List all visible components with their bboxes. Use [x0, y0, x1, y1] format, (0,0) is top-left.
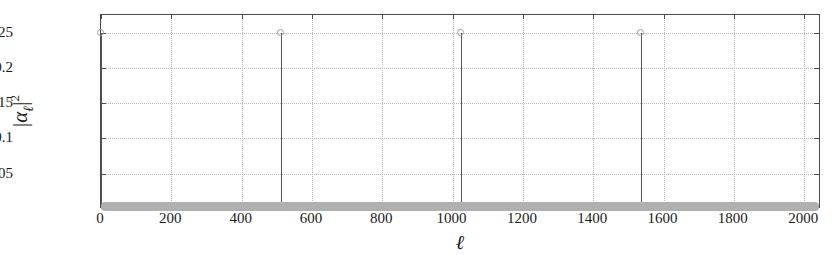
gridline-vertical: [804, 15, 805, 207]
x-tick-top: [242, 14, 243, 19]
gridline-horizontal: [101, 103, 819, 104]
gridline-vertical: [171, 15, 172, 207]
gridline-vertical: [664, 15, 665, 207]
gridline-vertical: [382, 15, 383, 207]
stem-line: [641, 33, 642, 209]
y-tick-label: 0.25: [0, 24, 13, 39]
gridline-vertical: [734, 15, 735, 207]
gridline-vertical: [453, 15, 454, 207]
stem-marker-open-circle: [277, 29, 284, 36]
stem-line: [281, 33, 282, 209]
x-tick-label: 800: [370, 211, 393, 226]
gridline-vertical: [242, 15, 243, 207]
gridline-vertical: [593, 15, 594, 207]
x-tick-top: [734, 14, 735, 19]
x-tick-top: [523, 14, 524, 19]
x-tick-top: [593, 14, 594, 19]
x-tick-label: 0: [96, 211, 104, 226]
stem-line: [101, 33, 102, 209]
x-tick-label: 400: [229, 211, 252, 226]
x-tick-label: 1200: [507, 211, 537, 226]
x-tick-top: [382, 14, 383, 19]
y-tick-label: 0.2: [0, 59, 13, 74]
y-axis-title: |αℓ|2: [8, 95, 35, 127]
x-tick-top: [171, 14, 172, 19]
x-tick-top: [312, 14, 313, 19]
gridline-horizontal: [101, 138, 819, 139]
plot-area: [100, 14, 820, 208]
y-tick-label: 0.05: [0, 165, 13, 180]
x-tick-top: [453, 14, 454, 19]
figure-canvas: 0200400600800100012001400160018002000 0.…: [0, 0, 839, 264]
x-tick-label: 1000: [437, 211, 467, 226]
x-tick-label: 1600: [648, 211, 678, 226]
y-tick-right: [814, 33, 820, 34]
stem-marker-open-circle: [457, 29, 464, 36]
gridline-vertical: [523, 15, 524, 207]
x-tick-label: 1800: [718, 211, 748, 226]
y-tick-right: [814, 68, 820, 69]
x-axis-title: ℓ: [100, 232, 820, 252]
x-tick-label: 2000: [788, 211, 818, 226]
gridline-vertical: [312, 15, 313, 207]
gridline-horizontal: [101, 174, 819, 175]
y-axis-title-text: |αℓ|2: [8, 95, 32, 127]
y-tick-right: [814, 103, 820, 104]
y-tick-label: 0.1: [0, 130, 13, 145]
x-tick-top: [101, 14, 102, 19]
x-tick-top: [664, 14, 665, 19]
y-tick-right: [814, 138, 820, 139]
x-tick-label: 200: [159, 211, 182, 226]
x-axis-title-text: ℓ: [456, 231, 464, 253]
gridline-horizontal: [101, 68, 819, 69]
x-tick-label: 1400: [577, 211, 607, 226]
stem-line: [461, 33, 462, 209]
x-tick-top: [804, 14, 805, 19]
stem-marker-open-circle: [97, 29, 104, 36]
stem-marker-open-circle: [637, 29, 644, 36]
x-tick-label: 600: [300, 211, 323, 226]
y-tick-right: [814, 174, 820, 175]
